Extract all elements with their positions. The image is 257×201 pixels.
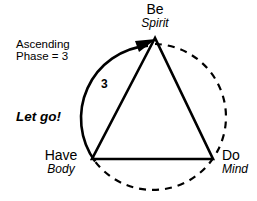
vertex-have-title: Have bbox=[32, 148, 90, 163]
vertex-do-title: Do bbox=[222, 148, 256, 163]
vertex-label-be: Be Spirit bbox=[126, 2, 184, 30]
ascending-note-line-1: Ascending bbox=[16, 38, 70, 50]
vertex-be-title: Be bbox=[126, 2, 184, 17]
circle-solid-ascending-arc bbox=[81, 46, 148, 162]
vertex-do-subtitle: Mind bbox=[222, 163, 256, 176]
ascending-phase-note: Ascending Phase = 3 bbox=[16, 38, 70, 63]
triangle-cycle-diagram: Be Spirit Ascending Phase = 3 Let go! 3 … bbox=[0, 0, 257, 201]
vertex-label-do: Do Mind bbox=[222, 148, 256, 176]
vertex-be-subtitle: Spirit bbox=[126, 17, 184, 30]
vertex-label-have: Have Body bbox=[32, 148, 90, 176]
ascending-note-line-2: Phase = 3 bbox=[16, 50, 70, 62]
let-go-note: Let go! bbox=[16, 110, 61, 125]
vertex-have-subtitle: Body bbox=[32, 163, 90, 176]
phase-number-label: 3 bbox=[101, 78, 108, 91]
